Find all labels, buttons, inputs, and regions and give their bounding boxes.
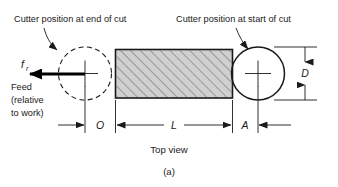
feed-line-3: to work) — [11, 108, 44, 118]
dimension-label-diameter: D — [301, 67, 309, 79]
feed-symbol-base: f — [21, 58, 25, 70]
dimension-approach: A — [240, 119, 291, 131]
dimension-length: L — [117, 119, 231, 131]
right-callout-leader — [236, 28, 248, 49]
feed-line-1: Feed — [11, 82, 32, 92]
technical-drawing-canvas: O L A D Cutter position at end of cut Cu… — [0, 0, 338, 187]
dimension-label-length: L — [171, 119, 177, 131]
dimension-overtravel: O — [58, 119, 104, 131]
dimension-label-overtravel: O — [96, 119, 104, 131]
workpiece-block — [116, 50, 233, 99]
feed-description: Feed (relative to work) — [11, 82, 44, 118]
milling-top-view-figure: O L A D Cutter position at end of cut Cu… — [0, 0, 338, 187]
left-callout-label: Cutter position at end of cut — [14, 14, 127, 24]
view-label: Top view — [150, 144, 187, 155]
feed-symbol-subscript: r — [26, 65, 29, 72]
feed-line-2: (relative — [11, 95, 44, 105]
figure-caption: (a) — [163, 166, 175, 177]
dimension-diameter: D — [274, 47, 317, 100]
left-callout-leader — [44, 28, 57, 50]
dimension-label-approach: A — [240, 119, 248, 131]
right-callout-label: Cutter position at start of cut — [176, 14, 291, 24]
feed-symbol: f r — [21, 58, 29, 72]
